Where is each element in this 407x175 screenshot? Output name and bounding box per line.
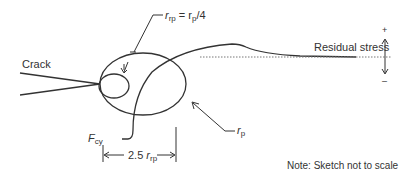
plus-sign: + <box>382 25 387 35</box>
rp-label: rp <box>237 124 246 138</box>
diagram-canvas: Crack + – Residual stress rrp = rp/4 rp … <box>0 0 407 175</box>
crack-lines <box>20 73 100 95</box>
crack-label: Crack <box>22 58 51 70</box>
residual-stress-label: Residual stress <box>314 41 390 53</box>
plastic-zone-ellipse <box>100 53 186 115</box>
reversed-plastic-zone-circle <box>99 74 129 98</box>
minus-sign: – <box>382 76 387 86</box>
rrp-leader <box>121 15 163 73</box>
rrp-equation-label: rrp = rp/4 <box>165 9 206 23</box>
dimension-label: 2.5 rrp <box>128 149 158 163</box>
scale-note: Note: Sketch not to scale <box>287 160 399 171</box>
fcy-label: Fcy <box>88 132 103 146</box>
rp-leader <box>192 102 235 131</box>
